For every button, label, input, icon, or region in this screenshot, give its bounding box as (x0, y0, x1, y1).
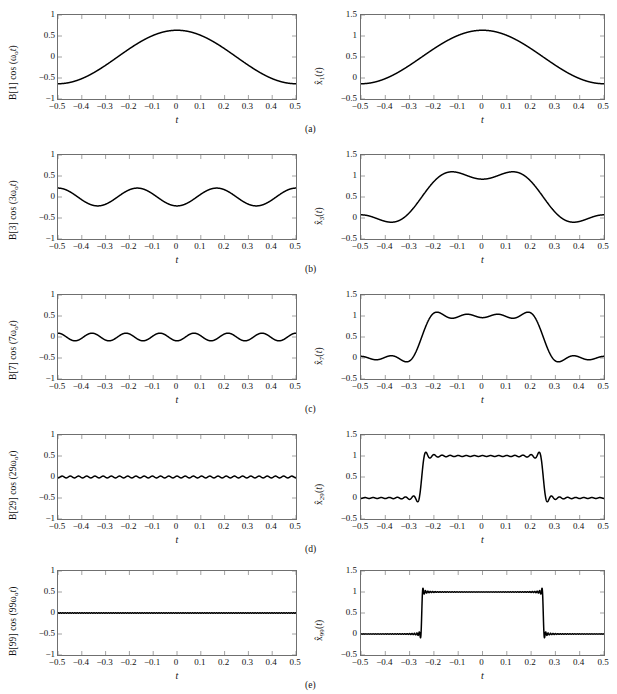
x-tick-label: −0.1 (449, 101, 465, 111)
y-tick-label: 1 (353, 170, 358, 180)
x-tick-label: 0.3 (549, 241, 560, 251)
x-tick-label: −0.2 (120, 521, 136, 531)
x-tick-label: −0.4 (376, 101, 392, 111)
y-tick-labels: 10.50−0.5−1 (30, 14, 55, 100)
x-tick-label: −0.4 (376, 521, 392, 531)
x-tick-label: 0 (479, 241, 484, 251)
y-tick-label: 0.5 (346, 191, 357, 201)
y-axis-label: B[29] cos (29ωot) (8, 451, 19, 520)
x-tick-label: 0.1 (194, 657, 205, 667)
x-tick-label: 0.5 (289, 657, 300, 667)
x-tick-label: −0.5 (352, 101, 368, 111)
y-tick-label: −0.5 (39, 72, 55, 82)
x-tick-label: −0.4 (376, 241, 392, 251)
x-tick-label: 0.5 (597, 381, 608, 391)
y-axis-label: B[7] cos (7ωot) (8, 320, 19, 380)
harmonic-curve (58, 30, 296, 83)
partial-sum-plot (360, 154, 605, 240)
x-tick-label: −0.4 (376, 657, 392, 667)
x-tick-label: 0.5 (289, 101, 300, 111)
x-tick-label: −0.5 (49, 657, 65, 667)
x-tick-label: 0.4 (266, 381, 277, 391)
partial-sum-curve (361, 312, 604, 362)
y-tick-label: 0 (51, 51, 56, 61)
x-tick-label: 0.4 (266, 101, 277, 111)
x-tick-labels: −0.5−0.4−0.3−0.2−0.100.10.20.30.40.5 (360, 241, 605, 252)
x-tick-label: −0.5 (352, 241, 368, 251)
figure-row: B[29] cos (29ωot) 10.50−0.5−1 −0.5−0.4−0… (0, 420, 617, 558)
x-axis-label: t (360, 670, 605, 681)
x-tick-label: 0.3 (242, 381, 253, 391)
x-tick-label: 0.2 (218, 657, 229, 667)
x-tick-labels: −0.5−0.4−0.3−0.2−0.100.10.20.30.40.5 (360, 657, 605, 668)
x-tick-label: −0.4 (73, 381, 89, 391)
y-tick-label: 1 (51, 9, 56, 19)
x-tick-label: 0.1 (194, 101, 205, 111)
y-tick-label: −0.5 (39, 628, 55, 638)
x-tick-label: −0.2 (120, 381, 136, 391)
partial-sum-panel-e: x̂99(t) 1.510.50−0.5 −0.5−0.4−0.3−0.2−0.… (305, 556, 617, 694)
y-tick-label: 0.5 (44, 586, 55, 596)
y-tick-labels: 10.50−0.5−1 (30, 154, 55, 240)
x-tick-label: 0.2 (524, 521, 535, 531)
y-tick-label: 1.5 (346, 565, 357, 575)
x-tick-label: 0.1 (500, 241, 511, 251)
y-tick-label: 0.5 (44, 450, 55, 460)
y-tick-labels: 10.50−0.5−1 (30, 434, 55, 520)
y-tick-label: 0.5 (346, 51, 357, 61)
x-tick-label: −0.1 (449, 521, 465, 531)
x-tick-label: −0.1 (144, 657, 160, 667)
x-tick-label: 0.3 (242, 101, 253, 111)
y-tick-label: 0.5 (44, 310, 55, 320)
y-tick-label: 1 (353, 586, 358, 596)
y-tick-label: 0.5 (44, 30, 55, 40)
x-tick-labels: −0.5−0.4−0.3−0.2−0.100.10.20.30.40.5 (57, 241, 297, 252)
x-tick-label: 0.5 (289, 521, 300, 531)
x-tick-label: 0.2 (218, 521, 229, 531)
subfigure-caption: (e) (305, 680, 316, 690)
partial-sum-panel-c: x̂7(t) 1.510.50−0.5 −0.5−0.4−0.3−0.2−0.1… (305, 280, 617, 418)
x-tick-label: 0.3 (549, 381, 560, 391)
x-tick-label: 0.2 (524, 101, 535, 111)
partial-sum-plot (360, 14, 605, 100)
partial-sum-curve (361, 172, 604, 222)
x-tick-label: −0.2 (425, 521, 441, 531)
x-tick-label: 0.1 (194, 521, 205, 531)
x-tick-label: 0.5 (597, 521, 608, 531)
y-tick-labels: 1.510.50−0.5 (329, 154, 357, 240)
x-tick-label: −0.1 (144, 241, 160, 251)
harmonic-panel-d: B[29] cos (29ωot) 10.50−0.5−1 −0.5−0.4−0… (0, 420, 300, 558)
harmonic-plot (57, 154, 297, 240)
y-tick-label: 0 (353, 492, 358, 502)
x-tick-label: −0.4 (73, 521, 89, 531)
x-tick-label: 0.2 (218, 101, 229, 111)
x-tick-label: −0.2 (425, 241, 441, 251)
x-tick-label: 0 (174, 381, 179, 391)
y-axis-label: x̂99(t) (314, 620, 325, 641)
x-tick-label: −0.3 (400, 521, 416, 531)
x-tick-label: 0.4 (573, 657, 584, 667)
x-axis-label: t (360, 394, 605, 405)
y-tick-label: 1.5 (346, 429, 357, 439)
x-tick-label: −0.4 (73, 657, 89, 667)
subfigure-caption: (a) (305, 124, 316, 134)
y-tick-label: 0 (353, 628, 358, 638)
x-tick-labels: −0.5−0.4−0.3−0.2−0.100.10.20.30.40.5 (360, 101, 605, 112)
x-tick-labels: −0.5−0.4−0.3−0.2−0.100.10.20.30.40.5 (57, 101, 297, 112)
y-axis-label: B[3] cos (3ωot) (8, 180, 19, 240)
x-tick-label: 0.1 (500, 657, 511, 667)
y-tick-labels: 1.510.50−0.5 (329, 14, 357, 100)
partial-sum-plot (360, 570, 605, 656)
harmonic-plot (57, 434, 297, 520)
x-tick-label: −0.5 (49, 521, 65, 531)
partial-sum-curve (361, 30, 604, 83)
x-tick-label: 0.4 (573, 381, 584, 391)
x-tick-label: 0.4 (573, 101, 584, 111)
y-tick-label: 1 (51, 149, 56, 159)
x-tick-label: 0.3 (242, 521, 253, 531)
x-axis-label: t (57, 254, 297, 265)
harmonic-plot (57, 570, 297, 656)
x-tick-label: −0.5 (49, 241, 65, 251)
x-tick-label: 0.5 (597, 657, 608, 667)
subfigure-caption: (c) (305, 404, 316, 414)
